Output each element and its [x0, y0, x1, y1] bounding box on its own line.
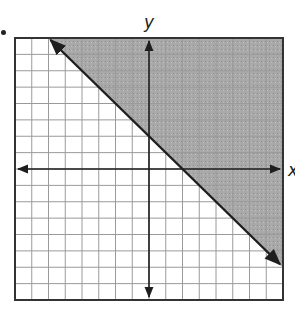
y-axis-label: y [144, 14, 154, 31]
inequality-graph [0, 0, 295, 309]
x-axis-label: x [288, 162, 295, 179]
